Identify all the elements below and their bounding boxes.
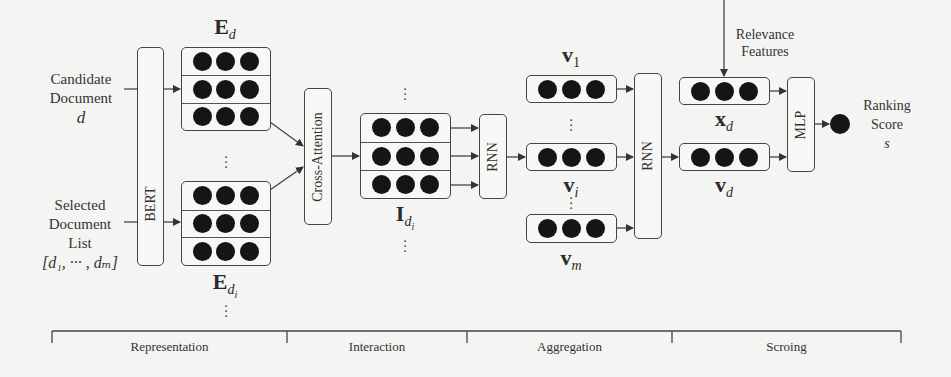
i-di-matrix bbox=[360, 113, 451, 199]
relevance-features-label: Relevance Features bbox=[730, 26, 800, 60]
vm-vector bbox=[526, 214, 617, 243]
ranking-score-label: Ranking Score s bbox=[858, 96, 916, 153]
stage-aggregation: Aggregation bbox=[467, 339, 672, 355]
stage-representation: Representation bbox=[52, 339, 287, 355]
stage-scoring: Scroing bbox=[672, 339, 901, 355]
stage-interaction: Interaction bbox=[287, 339, 467, 355]
e-di-matrix bbox=[181, 181, 271, 266]
cross-attention-module: Cross-Attention bbox=[304, 88, 332, 225]
v1-vector bbox=[526, 75, 617, 103]
v1-label: v1 bbox=[546, 42, 596, 71]
xd-vector bbox=[679, 77, 770, 105]
i-di-label: Idi bbox=[380, 201, 430, 232]
rnn-module-2: RNN bbox=[634, 73, 662, 239]
candidate-document-label: Candidate Document d bbox=[38, 70, 124, 127]
ellipsis-vertical: ··· bbox=[221, 155, 231, 170]
vi-vector bbox=[526, 143, 617, 171]
e-di-label: Edi bbox=[200, 269, 250, 300]
e-d-matrix bbox=[181, 47, 271, 131]
ellipsis-vertical: ··· bbox=[400, 87, 410, 102]
xd-label: xd bbox=[699, 106, 749, 135]
rnn-module-1: RNN bbox=[479, 114, 507, 199]
vd-vector bbox=[679, 143, 770, 171]
mlp-module: MLP bbox=[787, 77, 815, 172]
bert-module: BERT bbox=[137, 47, 164, 266]
e-d-label: Ed bbox=[200, 14, 250, 43]
ellipsis-vertical: ··· bbox=[566, 118, 576, 133]
ellipsis-vertical: ··· bbox=[221, 304, 231, 319]
ellipsis-vertical: ··· bbox=[566, 196, 576, 211]
ellipsis-vertical: ··· bbox=[400, 239, 410, 254]
vm-label: vm bbox=[546, 245, 596, 274]
ranking-score-node bbox=[830, 114, 850, 134]
vd-label: vd bbox=[699, 172, 749, 201]
selected-document-list-label: Selected Document List [d₁, ··· , dₘ] bbox=[34, 196, 126, 272]
